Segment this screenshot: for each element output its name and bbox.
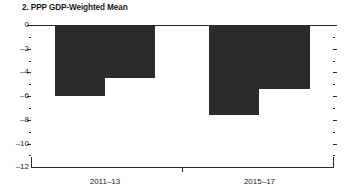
y-tick-major-right--2 bbox=[333, 49, 337, 50]
bar-2015-17-b[interactable] bbox=[259, 25, 310, 89]
chart-figure: 2. PPP GDP-Weighted Mean bbox=[0, 0, 349, 188]
y-tick-major-right--6 bbox=[333, 96, 337, 97]
y-tick-minor--5 bbox=[29, 84, 31, 85]
y-tick-minor-right--9 bbox=[333, 132, 335, 133]
y-tick-minor-right--1 bbox=[333, 37, 335, 38]
y-tick-major-right--4 bbox=[333, 72, 337, 73]
y-axis-label--6: –6 bbox=[20, 92, 29, 100]
y-tick-minor--3 bbox=[29, 61, 31, 62]
y-tick-minor--7 bbox=[29, 108, 31, 109]
x-axis-label-2011-13: 2011–13 bbox=[55, 177, 155, 186]
y-tick-minor-right--7 bbox=[333, 108, 335, 109]
y-tick-minor-right--3 bbox=[333, 61, 335, 62]
y-tick-minor-right--5 bbox=[333, 84, 335, 85]
y-axis-label--12: –12 bbox=[16, 163, 29, 171]
y-tick-minor--11 bbox=[29, 155, 31, 156]
y-tick-major-right--10 bbox=[333, 144, 337, 145]
y-tick-minor-right--11 bbox=[333, 155, 335, 156]
bar-2011-13-a[interactable] bbox=[55, 25, 105, 96]
y-axis-right-edge bbox=[333, 157, 334, 168]
y-tick-major-right--8 bbox=[333, 120, 337, 121]
y-axis-left-edge bbox=[31, 157, 32, 168]
bar-2015-17-a[interactable] bbox=[209, 25, 259, 115]
y-tick-major-right-0 bbox=[333, 25, 337, 26]
y-axis-label--8: –8 bbox=[20, 116, 29, 124]
plot-area: 0 –2 –4 –6 –8 –10 –12 2011–13 2015–17 bbox=[31, 25, 334, 168]
y-tick-minor--1 bbox=[29, 37, 31, 38]
y-tick-minor--9 bbox=[29, 132, 31, 133]
x-tick-center bbox=[182, 167, 183, 172]
y-axis-label-0: 0 bbox=[25, 21, 29, 29]
y-axis-label--10: –10 bbox=[16, 140, 29, 148]
y-axis-label--4: –4 bbox=[20, 68, 29, 76]
chart-title: 2. PPP GDP-Weighted Mean bbox=[22, 3, 128, 12]
y-axis-label--2: –2 bbox=[20, 45, 29, 53]
bar-2011-13-b[interactable] bbox=[105, 25, 155, 78]
x-axis-label-2015-17: 2015–17 bbox=[209, 177, 310, 186]
